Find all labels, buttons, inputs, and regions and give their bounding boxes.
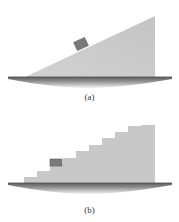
block-on-stairs	[50, 159, 62, 166]
caption-a: (a)	[0, 92, 179, 102]
diagram-canvas	[0, 0, 179, 222]
caption-b: (b)	[0, 205, 179, 215]
figure-a	[8, 16, 172, 88]
ramp	[25, 16, 155, 77]
ground-a	[8, 77, 172, 88]
ground-b	[8, 183, 172, 194]
figure-b	[8, 125, 172, 194]
staircase-main	[24, 125, 155, 183]
